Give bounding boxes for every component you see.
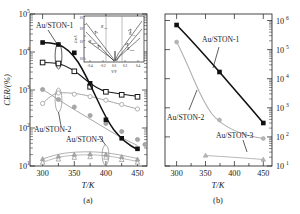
panel-b-xtick-350: 350	[199, 169, 211, 178]
panel-a-ytick-4-exp: 4	[27, 46, 30, 52]
annotation-b-ston1: Au/STON-1	[202, 35, 240, 44]
panel-b-ytick-6: 10	[276, 17, 284, 26]
panel-a-ytick-2-exp: 2	[27, 122, 30, 128]
panel-a-xtick-350: 350	[68, 169, 80, 178]
panel-a-xtick-300: 300	[36, 169, 48, 178]
panel-b: 10 1 10 2 10 3 10 4 10 5 10 6 300 350 40…	[165, 14, 289, 205]
panel-b-ytick-3: 10	[276, 104, 284, 113]
panel-b-ytick-5: 10	[276, 46, 284, 55]
inset-xtick-4: 0.2	[123, 64, 128, 68]
panel-a-ytick-4: 10	[19, 48, 27, 57]
annotation-b-ston2: Au/STON-2	[167, 113, 205, 122]
annotation-a-ston1: Au/STON-1	[36, 21, 74, 30]
panel-a-x-tick-labels: 300 350 400 450	[36, 169, 143, 178]
annotation-a-ston2: Au/STON-2	[34, 125, 72, 134]
panel-a-ytick-3: 10	[19, 86, 27, 95]
panel-b-ytick-6-exp: 6	[286, 15, 289, 21]
panel-a-ytick-5: 10	[19, 10, 27, 19]
panel-a-x-axis-label: T/K	[82, 180, 96, 190]
panel-a-xtick-450: 450	[131, 169, 143, 178]
panel-a-ytick-1: 10	[19, 162, 27, 171]
panel-b-caption: (b)	[213, 196, 223, 205]
inset-xtick-3: 0.0	[112, 64, 117, 68]
figure-svg: 10 1 10 2 10 3 10 4 10 5 300 350 400 450…	[0, 0, 300, 214]
panel-b-ytick-5-exp: 5	[286, 44, 289, 50]
panel-a-ytick-2: 10	[19, 124, 27, 133]
panel-a-ytick-3-exp: 3	[27, 84, 30, 90]
panel-b-xtick-400: 400	[228, 169, 240, 178]
inset-xtick-1: -0.4	[87, 64, 93, 68]
panel-b-ytick-2: 10	[276, 133, 284, 142]
panel-b-ytick-1: 10	[276, 162, 284, 171]
panel-b-y-tick-labels: 10 1 10 2 10 3 10 4 10 5 10 6	[276, 15, 289, 172]
panel-a-caption: (a)	[83, 196, 93, 205]
panel-a-ytick-1-exp: 1	[27, 160, 30, 166]
figure-root: 10 1 10 2 10 3 10 4 10 5 300 350 400 450…	[0, 0, 300, 214]
panel-b-ytick-3-exp: 3	[286, 102, 289, 108]
panel-a-y-tick-labels: 10 1 10 2 10 3 10 4 10 5	[19, 8, 30, 172]
panel-b-ytick-1-exp: 1	[286, 160, 289, 166]
inset-label-rlow-left-sub: low	[104, 27, 108, 30]
panel-a-xtick-400: 400	[100, 169, 112, 178]
panel-b-x-tick-labels: 300 350 400 450	[170, 169, 269, 178]
panel-b-xtick-300: 300	[170, 169, 182, 178]
annotation-b-ston3: Au/STON-3	[216, 131, 254, 140]
inset-label-rlow-right-sub: low	[132, 34, 136, 37]
panel-a-y-axis-label: CER/(%)	[2, 74, 12, 106]
panel-b-ytick-2-exp: 2	[286, 131, 289, 137]
annotation-a-ston3: Au/STON-3	[66, 135, 104, 144]
panel-b-ytick-4-exp: 4	[286, 73, 289, 79]
inset-x-axis-label: V/V	[111, 70, 117, 74]
panel-b-ytick-4: 10	[276, 75, 284, 84]
inset-y-axis-label: I/mA	[74, 35, 78, 44]
panel-b-xtick-450: 450	[257, 169, 269, 178]
panel-b-x-axis-label: T/K	[212, 180, 226, 190]
inset-xtick-2: -0.2	[100, 64, 106, 68]
panel-a: 10 1 10 2 10 3 10 4 10 5 300 350 400 450…	[2, 8, 147, 206]
panel-a-ytick-5-exp: 5	[27, 8, 30, 14]
inset-xtick-5: 0.4	[136, 64, 141, 68]
